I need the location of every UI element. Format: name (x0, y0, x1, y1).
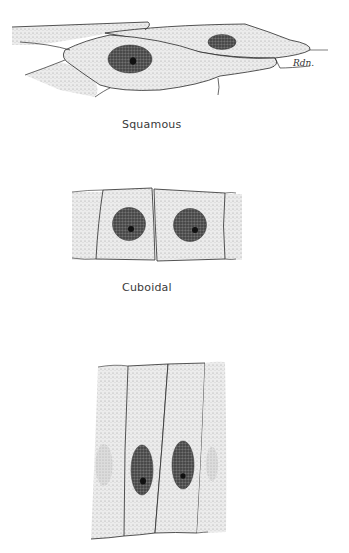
columnar-panel (91, 362, 226, 539)
cuboidal-label: Cuboidal (122, 281, 172, 294)
columnar-nucleolus-2 (180, 473, 185, 479)
columnar-nucleus-2 (172, 441, 194, 489)
artist-signature: Rdn. (292, 58, 314, 68)
columnar-nucleus-faint-left (96, 444, 113, 486)
columnar-nucleus-1 (131, 445, 153, 495)
cuboidal-nucleus-1 (113, 208, 146, 241)
cuboidal-panel (72, 188, 242, 261)
columnar-nucleolus-1 (140, 478, 146, 485)
cuboidal-cell-right-partial (224, 194, 242, 260)
cuboidal-nucleolus-1 (128, 226, 134, 232)
epithelium-illustration: Rdn. (0, 0, 349, 553)
squamous-nucleus-small (208, 35, 236, 50)
squamous-nucleolus (130, 57, 136, 65)
cuboidal-nucleolus-2 (192, 227, 198, 233)
columnar-nucleus-faint-right (206, 447, 218, 481)
squamous-label: Squamous (122, 118, 181, 131)
squamous-panel: Rdn. (12, 22, 328, 97)
squamous-nucleus-large (108, 45, 152, 73)
cuboidal-nucleus-2 (174, 209, 207, 242)
